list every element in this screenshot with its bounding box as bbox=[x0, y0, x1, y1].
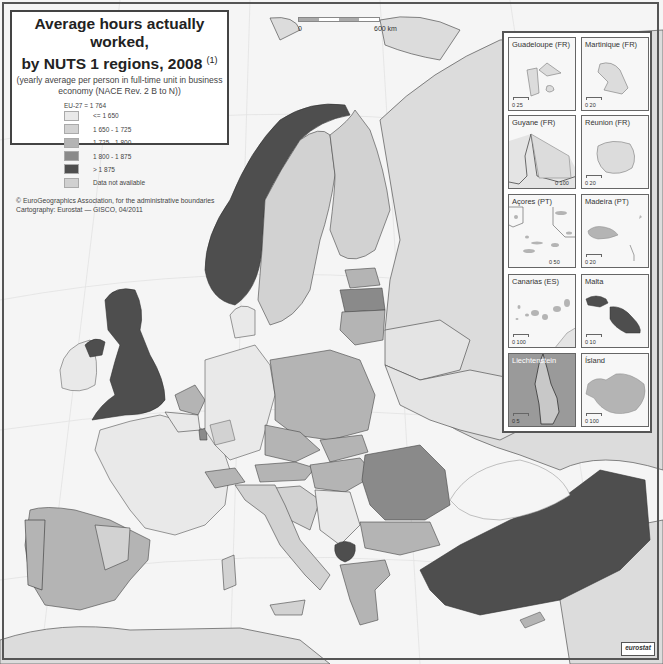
legend-swatch bbox=[64, 151, 79, 161]
inset-title: Martinique (FR) bbox=[585, 40, 637, 49]
legend-label: 1 725 - 1 800 bbox=[93, 139, 131, 146]
legend-item: <= 1 650 bbox=[64, 109, 223, 122]
legend-label: Data not available bbox=[93, 179, 145, 186]
legend-swatch bbox=[64, 124, 79, 134]
inset-guyane: Guyane (FR) 0 100 bbox=[508, 115, 576, 189]
legend-swatch bbox=[64, 178, 79, 188]
inset-madeira: Madeira (PT) 0 20 bbox=[581, 194, 649, 268]
inset-scale: 0 25 bbox=[512, 102, 523, 108]
legend-item: 1 725 - 1 800 bbox=[64, 136, 223, 149]
inset-title: Madeira (PT) bbox=[585, 197, 629, 206]
inset-liechtenstein: Liechtenstein 0 5 bbox=[508, 353, 576, 427]
inset-reunion: Réunion (FR) 0 20 bbox=[581, 115, 649, 189]
eurostat-logo: eurostat bbox=[621, 642, 655, 656]
inset-scale: 0 50 bbox=[549, 259, 560, 265]
inset-malta: Malta 0 10 bbox=[581, 274, 649, 348]
map-subtitle: (yearly average per person in full-time … bbox=[16, 75, 223, 97]
title-line-1: Average hours actually worked, bbox=[35, 15, 205, 50]
inset-scale: 0 100 bbox=[585, 418, 599, 424]
title-line-2: by NUTS 1 regions, 2008 bbox=[21, 55, 202, 72]
inset-martinique: Martinique (FR) 0 20 bbox=[581, 37, 649, 111]
legend-swatch bbox=[64, 111, 79, 121]
inset-scale: 0 100 bbox=[512, 339, 526, 345]
eu-average-label: EU-27 = 1 764 bbox=[64, 102, 223, 109]
inset-scale: 0 100 bbox=[555, 180, 569, 186]
inset-title: Canarias (ES) bbox=[512, 277, 559, 286]
inset-title: Ísland bbox=[585, 356, 605, 365]
inset-title: Guadeloupe (FR) bbox=[512, 40, 570, 49]
legend-item: 1 650 - 1 725 bbox=[64, 123, 223, 136]
inset-title: Réunion (FR) bbox=[585, 118, 630, 127]
scale-bar-graphic bbox=[298, 17, 380, 22]
inset-title: Liechtenstein bbox=[512, 356, 556, 365]
inset-maps-panel: Guadeloupe (FR) 0 25 Martinique (FR) 0 2… bbox=[502, 31, 652, 433]
inset-scale: 0 20 bbox=[585, 259, 596, 265]
scale-start-label: 0 bbox=[298, 25, 302, 32]
legend-label: <= 1 650 bbox=[93, 112, 119, 119]
footnote-ref: (1) bbox=[207, 55, 218, 65]
credits-cartography: Cartography: Eurostat — GISCO, 04/2011 bbox=[16, 205, 223, 214]
inset-island: Ísland 0 100 bbox=[581, 353, 649, 427]
legend-label: 1 800 - 1 875 bbox=[93, 153, 131, 160]
legend-swatch bbox=[64, 138, 79, 148]
map-title: Average hours actually worked, by NUTS 1… bbox=[16, 15, 223, 73]
inset-canarias: Canarias (ES) 0 100 bbox=[508, 274, 576, 348]
scale-bar: 0 600 km bbox=[298, 17, 380, 22]
credits: © EuroGeographics Association, for the a… bbox=[16, 196, 223, 214]
inset-title: Guyane (FR) bbox=[512, 118, 555, 127]
legend-swatch bbox=[64, 164, 79, 174]
inset-scale: 0 5 bbox=[512, 418, 520, 424]
legend-item: Data not available bbox=[64, 176, 223, 189]
inset-guadeloupe: Guadeloupe (FR) 0 25 bbox=[508, 37, 576, 111]
scale-end-label: 600 km bbox=[374, 25, 397, 32]
inset-title: Malta bbox=[585, 277, 603, 286]
credits-copyright: © EuroGeographics Association, for the a… bbox=[16, 196, 223, 205]
inset-title: Açores (PT) bbox=[512, 197, 552, 206]
inset-scale: 0 20 bbox=[585, 180, 596, 186]
legend-panel: Average hours actually worked, by NUTS 1… bbox=[10, 10, 229, 145]
inset-scale: 0 20 bbox=[585, 102, 596, 108]
inset-acores: Açores (PT) 0 50 bbox=[508, 194, 576, 268]
legend-label: 1 650 - 1 725 bbox=[93, 126, 131, 133]
inset-scale: 0 10 bbox=[585, 339, 596, 345]
map-figure: Average hours actually worked, by NUTS 1… bbox=[0, 0, 663, 664]
legend-item: > 1 875 bbox=[64, 163, 223, 176]
legend-item: 1 800 - 1 875 bbox=[64, 149, 223, 162]
legend-label: > 1 875 bbox=[93, 166, 115, 173]
